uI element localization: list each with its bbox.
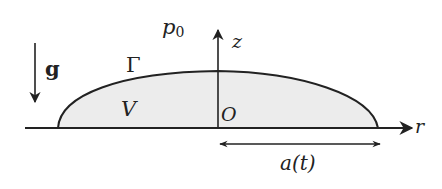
radius-label: a(t) — [280, 151, 316, 175]
origin-label: O — [221, 103, 237, 125]
interface-label: Γ — [126, 53, 141, 77]
gravity-label: g — [45, 56, 60, 81]
r-axis-label: r — [415, 115, 426, 137]
volume-label: V — [121, 97, 138, 121]
pressure-label: p0 — [162, 15, 184, 40]
drop-diagram: p0 z g Γ V O r a(t) — [0, 0, 442, 189]
z-axis-label: z — [231, 30, 243, 52]
